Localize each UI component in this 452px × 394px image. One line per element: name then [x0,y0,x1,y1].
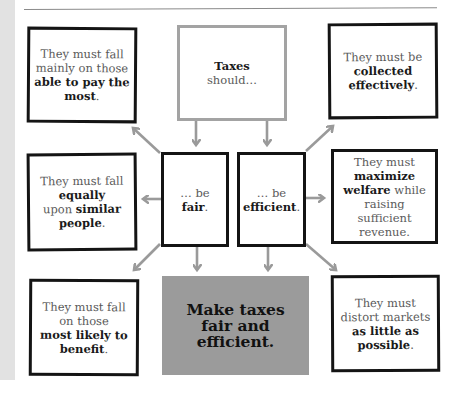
conclusion-box: Make taxes fair and efficient. [162,276,309,375]
arrow-fair-to-benefit [134,244,160,270]
ability-line1: They must fall [34,47,130,62]
distortion-line1: They must distort markets [338,295,433,323]
side-strip [0,0,15,380]
arrow-efficient-to-collection [306,126,333,151]
ability-bold: able to pay the most [34,75,129,103]
arrow-fair-to-ability [133,128,160,153]
equality-line2: upon [43,202,72,216]
collection-line1: They must be [335,50,431,65]
fair-box: … be fair. [161,152,229,247]
collection-bold: collected effectively [348,64,414,92]
equality-bold1: equally [34,188,130,203]
benefit-line1: They must fall on those [36,299,132,328]
distortion-box: They must distort markets as little as p… [331,275,441,373]
distortion-bold: as little as possible [352,323,419,351]
title-bold: Taxes [207,59,257,73]
title-rest: should… [207,73,257,87]
efficient-prefix: … be [243,186,300,200]
collection-box: They must be collected effectively. [328,23,439,120]
efficient-box: … be efficient. [237,152,306,247]
ability-to-pay-box: They must fall mainly on those able to p… [27,27,138,124]
fair-prefix: … be [180,186,209,200]
benefit-bold: most likely to benefit [40,327,128,355]
welfare-box: They must maximize welfare while raising… [331,149,438,244]
title-box: Taxes should… [177,25,287,121]
arrow-efficient-to-distortion [306,244,336,270]
welfare-line1: They must [338,155,431,169]
efficient-bold: efficient [243,200,297,214]
ability-line2: mainly on those [34,61,130,76]
conclusion-text: Make taxes fair and efficient. [184,302,287,350]
equality-box: They must fall equally upon similar peop… [27,153,138,252]
benefit-box: They must fall on those most likely to b… [29,279,140,377]
equality-line1: They must fall [34,174,130,189]
top-rule [24,7,437,10]
fair-bold: fair [182,200,205,214]
